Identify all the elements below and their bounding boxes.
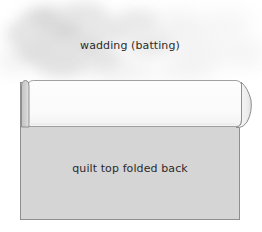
diagram-canvas: wadding (batting) quilt top folded back bbox=[0, 0, 262, 232]
wadding-label: wadding (batting) bbox=[80, 39, 180, 52]
quilting-diagram: wadding (batting) quilt top folded back bbox=[0, 0, 262, 232]
fold-edge-left bbox=[22, 81, 30, 128]
quilt-top-label: quilt top folded back bbox=[72, 162, 188, 175]
folded-band-shape bbox=[28, 81, 242, 128]
